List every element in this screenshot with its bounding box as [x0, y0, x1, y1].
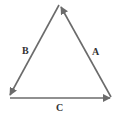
label-c: C	[56, 102, 63, 113]
vector-b-arrow	[10, 5, 59, 95]
vector-triangle-diagram: B A C	[0, 0, 124, 114]
vector-a-arrow	[61, 7, 111, 97]
label-b: B	[22, 45, 29, 56]
label-a: A	[92, 46, 100, 57]
